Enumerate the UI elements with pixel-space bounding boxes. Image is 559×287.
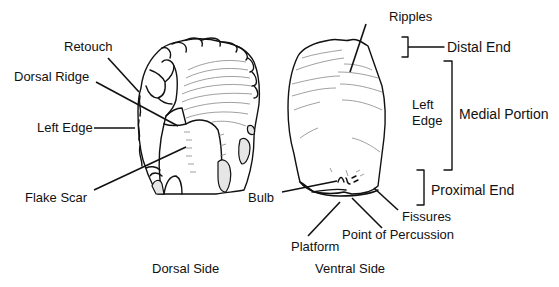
label-platform: Platform (291, 240, 339, 254)
label-flake-scar: Flake Scar (25, 191, 87, 205)
ventral-flake-drawing (288, 39, 385, 196)
label-dorsal-ridge: Dorsal Ridge (14, 70, 89, 84)
label-medial-portion: Medial Portion (459, 106, 549, 122)
dorsal-flake-drawing (138, 38, 259, 194)
label-left-edge-dorsal: Left Edge (37, 121, 93, 135)
caption-ventral-side: Ventral Side (315, 262, 385, 276)
label-proximal-end: Proximal End (431, 182, 514, 198)
label-distal-end: Distal End (447, 39, 511, 55)
label-ripples: Ripples (389, 10, 432, 24)
label-fissures: Fissures (402, 210, 451, 224)
label-bulb: Bulb (248, 191, 274, 205)
label-retouch: Retouch (64, 40, 112, 54)
caption-dorsal-side: Dorsal Side (152, 262, 219, 276)
label-left-edge-ventral-line1: Left (412, 98, 434, 112)
label-left-edge-ventral-line2: Edge (412, 114, 442, 128)
label-point-of-percussion: Point of Percussion (342, 228, 454, 242)
